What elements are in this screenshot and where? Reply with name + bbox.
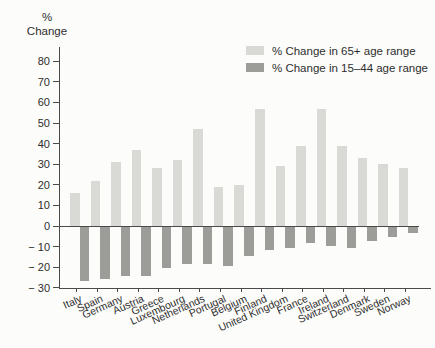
bar-15-44-united-kingdom <box>285 227 295 248</box>
bar-15-44-germany <box>121 227 131 276</box>
bar-15-44-belgium <box>244 227 254 256</box>
bar-15-44-sweden <box>388 227 398 237</box>
y-tick-0 <box>53 226 59 227</box>
x-tick-spain <box>97 288 98 292</box>
y-tick-10 <box>53 205 59 206</box>
bar-65plus-united-kingdom <box>276 166 286 226</box>
bar-15-44-norway <box>408 227 418 233</box>
y-tick-label-60: 60 <box>13 96 50 108</box>
y-tick--10 <box>53 246 59 247</box>
x-tick-switzerland <box>343 288 344 292</box>
y-axis-line <box>59 47 60 288</box>
bar-65plus-belgium <box>234 185 244 226</box>
x-tick-sweden <box>384 288 385 292</box>
y-tick-label-80: 80 <box>13 55 50 67</box>
y-tick-20 <box>53 184 59 185</box>
y-tick-label-0: 0 <box>13 220 50 232</box>
bar-15-44-finland <box>265 227 275 250</box>
y-tick-60 <box>53 102 59 103</box>
bar-65plus-italy <box>70 193 80 226</box>
x-axis-line <box>59 288 431 289</box>
bar-65plus-portugal <box>214 187 224 226</box>
bar-65plus-norway <box>399 168 409 226</box>
y-tick-label-50: 50 <box>13 117 50 129</box>
plot-area: 80706050403020100− 10− 20− 30ItalySpainG… <box>0 0 435 348</box>
x-tick-portugal <box>220 288 221 292</box>
y-tick-80 <box>53 61 59 62</box>
x-tick-united-kingdom <box>282 288 283 292</box>
x-tick-norway <box>405 288 406 292</box>
bar-65plus-denmark <box>358 158 368 226</box>
x-tick-netherlands <box>199 288 200 292</box>
y-tick-label--20: − 20 <box>13 261 50 273</box>
bar-chart-figure: % Change % Change in 65+ age range % Cha… <box>0 0 435 348</box>
bar-65plus-spain <box>91 181 101 226</box>
bar-65plus-switzerland <box>337 146 347 226</box>
zero-baseline <box>59 226 419 227</box>
y-tick-label-30: 30 <box>13 158 50 170</box>
y-tick-label--10: − 10 <box>13 241 50 253</box>
bar-15-44-denmark <box>367 227 377 241</box>
bar-15-44-austria <box>141 227 151 276</box>
y-tick-label-40: 40 <box>13 138 50 150</box>
y-tick-label--30: − 30 <box>13 282 50 294</box>
bar-65plus-luxembourg <box>173 160 183 226</box>
y-tick-30 <box>53 164 59 165</box>
bar-65plus-sweden <box>378 164 388 226</box>
x-tick-ireland <box>323 288 324 292</box>
bar-65plus-finland <box>255 109 265 226</box>
x-tick-germany <box>117 288 118 292</box>
bar-65plus-netherlands <box>193 129 203 226</box>
x-tick-greece <box>158 288 159 292</box>
x-tick-france <box>302 288 303 292</box>
x-tick-denmark <box>364 288 365 292</box>
y-tick-50 <box>53 123 59 124</box>
bar-15-44-netherlands <box>203 227 213 264</box>
y-tick-40 <box>53 143 59 144</box>
x-tick-finland <box>261 288 262 292</box>
x-tick-luxembourg <box>179 288 180 292</box>
bar-15-44-switzerland <box>347 227 357 248</box>
bar-15-44-portugal <box>223 227 233 266</box>
bar-65plus-france <box>296 146 306 226</box>
x-tick-belgium <box>241 288 242 292</box>
bar-65plus-greece <box>152 168 162 226</box>
x-tick-austria <box>138 288 139 292</box>
bar-15-44-italy <box>80 227 90 281</box>
y-tick--20 <box>53 267 59 268</box>
bar-15-44-luxembourg <box>182 227 192 264</box>
bar-15-44-spain <box>100 227 110 279</box>
bar-15-44-greece <box>162 227 172 268</box>
bar-65plus-ireland <box>317 109 327 226</box>
bar-65plus-germany <box>111 162 121 226</box>
y-tick-label-20: 20 <box>13 179 50 191</box>
bar-65plus-austria <box>132 150 142 226</box>
y-tick-label-70: 70 <box>13 76 50 88</box>
bar-15-44-ireland <box>326 227 336 246</box>
y-tick-70 <box>53 81 59 82</box>
bar-15-44-france <box>306 227 316 243</box>
y-tick--30 <box>53 287 59 288</box>
x-tick-italy <box>76 288 77 292</box>
y-tick-label-10: 10 <box>13 199 50 211</box>
